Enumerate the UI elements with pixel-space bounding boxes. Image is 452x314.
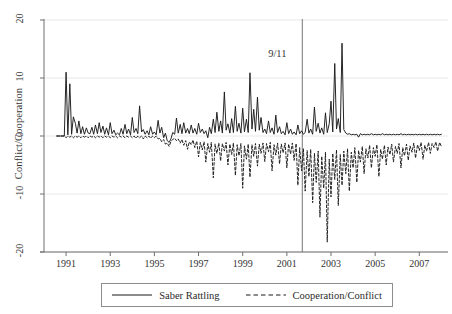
- legend-entry-cooperation-conflict: Cooperation/Conflict: [246, 290, 382, 301]
- series-line-saber-rattling: [57, 43, 442, 142]
- legend-label-cooperation-conflict: Cooperation/Conflict: [293, 290, 382, 301]
- series-line-cooperation-conflict: [57, 136, 442, 242]
- legend-label-saber-rattling: Saber Rattling: [159, 290, 219, 301]
- legend-line-solid-icon: [112, 290, 152, 300]
- legend-entry-saber-rattling: Saber Rattling: [112, 290, 219, 301]
- chart-legend: Saber Rattling Cooperation/Conflict: [101, 283, 393, 307]
- plot-canvas: [0, 0, 452, 314]
- chart-figure: Conflict/Cooperation 20100-10-20 1991199…: [0, 0, 452, 314]
- annotation-9-11-label: 9/11: [268, 48, 286, 59]
- legend-line-dashed-icon: [246, 290, 286, 300]
